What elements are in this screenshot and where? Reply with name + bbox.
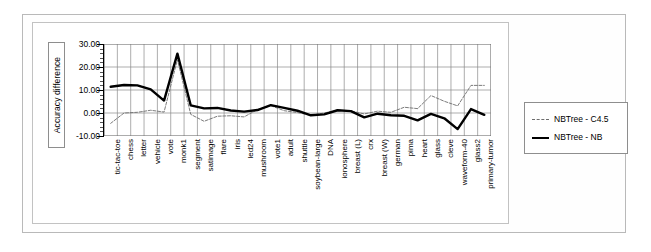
x-axis-tick-label: breast (W) xyxy=(380,139,389,176)
x-axis-tick-label: vote xyxy=(166,139,175,154)
x-axis-tick-label: segment xyxy=(193,139,202,170)
x-axis-tick-labels: tic-tac-toechesslettervehiclevotemonk1se… xyxy=(103,139,490,219)
y-axis-title-box: Accuracy difference xyxy=(48,42,65,148)
x-axis-tick-label: chess xyxy=(126,139,135,160)
x-axis-tick-label: mushroom xyxy=(259,139,268,177)
x-axis-tick-label: satimage xyxy=(206,139,215,171)
x-axis-tick-label: monk1 xyxy=(179,139,188,163)
legend-item-nb: NBTree - NB xyxy=(532,128,627,146)
x-axis-tick-label: tic-tac-toe xyxy=(113,139,122,174)
y-axis-major-tick xyxy=(97,136,104,137)
x-axis-tick-label: german xyxy=(393,139,402,166)
x-axis-tick-label: DNA xyxy=(326,139,335,156)
x-axis-tick-label: adult xyxy=(286,139,295,156)
x-axis-tick-label: glass xyxy=(433,139,442,158)
x-axis-tick-label: breast (L) xyxy=(353,139,362,173)
x-axis-tick-label: heart xyxy=(420,139,429,157)
x-axis-tick-label: waveform-40 xyxy=(460,139,469,185)
x-axis-tick-label: soybean-large xyxy=(313,139,322,190)
x-axis-tick-label: iris xyxy=(233,139,242,149)
x-axis-tick-label: shuttle xyxy=(300,139,309,163)
legend-label-c45: NBTree - C4.5 xyxy=(554,114,608,124)
chart-figure: Accuracy difference -10.000.0010.0020.00… xyxy=(0,0,651,252)
plot-svg xyxy=(104,44,491,136)
x-axis-tick-label: cleve xyxy=(446,139,455,158)
x-axis-tick-label: crx xyxy=(366,139,375,150)
legend-item-c45: NBTree - C4.5 xyxy=(532,110,627,128)
legend-line-icon-nb xyxy=(532,133,549,141)
x-axis-tick-label: ionosphere xyxy=(340,139,349,179)
legend-line-icon-c45 xyxy=(532,115,549,123)
y-axis-title: Accuracy difference xyxy=(52,57,62,133)
x-axis-tick-label: pima xyxy=(406,139,415,156)
series-line-nbtree-nb xyxy=(111,54,485,129)
plot-area xyxy=(103,44,490,136)
legend: NBTree - C4.5 NBTree - NB xyxy=(524,102,628,154)
x-axis-tick-label: led24 xyxy=(246,139,255,159)
x-axis-tick-label: primary-tumor xyxy=(486,139,495,189)
legend-label-nb: NBTree - NB xyxy=(554,132,602,142)
x-axis-tick-label: flare xyxy=(219,139,228,155)
x-axis-tick-label: glass2 xyxy=(473,139,482,162)
y-axis-tick-labels: -10.000.0010.0020.0030.00 xyxy=(66,40,100,140)
x-axis-tick-label: vote1 xyxy=(273,139,282,159)
x-axis-tick-label: letter xyxy=(139,139,148,157)
x-axis-tick-label: vehicle xyxy=(153,139,162,164)
